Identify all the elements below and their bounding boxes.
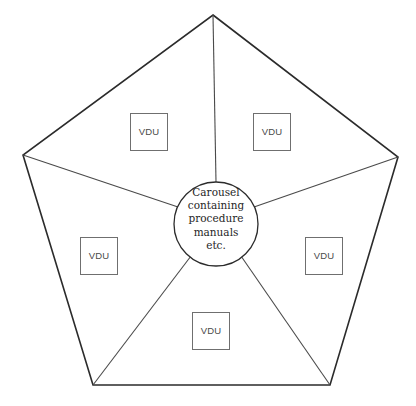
carousel-hub-label: Carousel containing procedure manuals et…: [173, 186, 259, 252]
vdu-bottom: VDU: [192, 312, 230, 350]
hub-label-line-3: procedure: [173, 212, 259, 225]
spoke-bottom-left: [93, 256, 191, 385]
vdu-bottom-label: VDU: [201, 326, 222, 336]
vdu-left-label: VDU: [89, 251, 110, 261]
spoke-left: [23, 155, 178, 207]
hub-label-line-1: Carousel: [173, 186, 259, 199]
vdu-left: VDU: [80, 237, 118, 275]
hub-label-line-4: manuals: [173, 226, 259, 239]
vdu-top-right-label: VDU: [262, 127, 283, 137]
vdu-top-left: VDU: [130, 113, 168, 151]
carousel-pentagon-diagram: Carousel containing procedure manuals et…: [0, 0, 416, 406]
spoke-bottom-right: [241, 256, 330, 385]
spoke-top: [213, 15, 216, 182]
hub-label-line-5: etc.: [173, 239, 259, 252]
spoke-right: [254, 157, 398, 207]
vdu-right: VDU: [305, 237, 343, 275]
vdu-top-left-label: VDU: [139, 127, 160, 137]
hub-label-line-2: containing: [173, 199, 259, 212]
vdu-right-label: VDU: [314, 251, 335, 261]
vdu-top-right: VDU: [253, 113, 291, 151]
